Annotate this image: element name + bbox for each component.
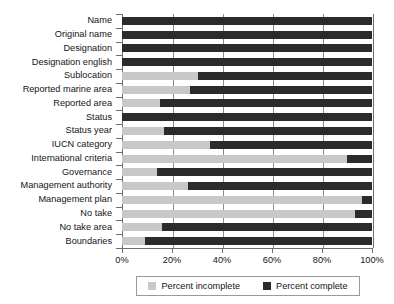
legend-label: Percent incomplete <box>161 281 240 291</box>
y-axis: NameOriginal nameDesignationDesignation … <box>0 14 122 248</box>
y-axis-label: Sublocation <box>64 71 112 80</box>
bar-segment-incomplete <box>122 210 355 218</box>
table-row <box>122 86 372 94</box>
x-axis-tick <box>372 248 373 253</box>
bar-segment-complete <box>160 99 372 107</box>
bar-segment-complete <box>198 72 372 80</box>
y-axis-label: Name <box>87 16 112 25</box>
bar-segment-incomplete <box>122 86 190 94</box>
bar-segment-complete <box>122 113 372 121</box>
y-axis-tick <box>116 55 122 56</box>
bar-segment-complete <box>362 196 372 204</box>
y-axis-label: IUCN category <box>52 140 112 149</box>
bar-segment-incomplete <box>122 127 164 135</box>
table-row <box>122 113 372 121</box>
y-axis-tick <box>116 28 122 29</box>
y-axis-label: Designation <box>63 44 112 53</box>
y-axis-tick <box>116 220 122 221</box>
bar-segment-incomplete <box>122 196 362 204</box>
y-axis-label: Governance <box>62 168 112 177</box>
bar-segment-complete <box>190 86 372 94</box>
y-axis-tick <box>116 138 122 139</box>
legend-swatch-icon <box>263 282 271 290</box>
bar-segment-incomplete <box>122 141 210 149</box>
y-axis-label: Status year <box>66 126 112 135</box>
table-row <box>122 31 372 39</box>
y-axis-label: Management authority <box>21 181 112 190</box>
x-axis-tick <box>272 248 273 253</box>
bar-segment-complete <box>210 141 372 149</box>
y-axis-tick <box>116 97 122 98</box>
y-axis-tick <box>116 124 122 125</box>
x-axis-tick-label: 40% <box>213 255 231 265</box>
y-axis-label: Designation english <box>32 58 112 67</box>
y-axis-tick <box>116 165 122 166</box>
bar-segment-incomplete <box>122 99 160 107</box>
y-axis-tick <box>116 14 122 15</box>
table-row <box>122 237 372 245</box>
y-axis-label: Management plan <box>38 195 112 204</box>
y-axis-tick <box>116 179 122 180</box>
legend-label: Percent complete <box>276 281 348 291</box>
x-axis-tick <box>222 248 223 253</box>
table-row <box>122 58 372 66</box>
bar-segment-complete <box>157 168 372 176</box>
y-axis-label: No take area <box>59 223 112 232</box>
bar-segment-incomplete <box>122 72 198 80</box>
y-axis-label: Original name <box>55 30 112 39</box>
table-row <box>122 127 372 135</box>
bar-segment-complete <box>122 31 372 39</box>
table-row <box>122 141 372 149</box>
table-row <box>122 168 372 176</box>
bar-segment-incomplete <box>122 223 162 231</box>
table-row <box>122 99 372 107</box>
legend-item: Percent incomplete <box>148 281 240 291</box>
y-axis-tick <box>116 69 122 70</box>
y-axis-tick <box>116 42 122 43</box>
bar-segment-complete <box>188 182 372 190</box>
y-axis-tick <box>116 193 122 194</box>
y-axis-tick <box>116 207 122 208</box>
table-row <box>122 223 372 231</box>
y-axis-label: International criteria <box>31 154 112 163</box>
bars-layer <box>122 14 372 248</box>
bar-segment-incomplete <box>122 237 145 245</box>
table-row <box>122 155 372 163</box>
table-row <box>122 196 372 204</box>
x-axis-tick <box>172 248 173 253</box>
y-axis-label: No take <box>80 209 112 218</box>
bar-segment-incomplete <box>122 182 188 190</box>
bar-segment-complete <box>145 237 372 245</box>
stacked-bar-chart: NameOriginal nameDesignationDesignation … <box>0 0 394 304</box>
x-axis-tick-label: 100% <box>360 255 384 265</box>
bar-segment-incomplete <box>122 168 157 176</box>
bar-segment-complete <box>347 155 372 163</box>
bar-segment-incomplete <box>122 155 347 163</box>
x-axis-tick <box>322 248 323 253</box>
table-row <box>122 210 372 218</box>
y-axis-label: Boundaries <box>66 237 112 246</box>
bar-segment-complete <box>164 127 372 135</box>
y-axis-tick <box>116 152 122 153</box>
chart-legend: Percent incompletePercent complete <box>136 276 360 296</box>
y-axis-tick <box>116 83 122 84</box>
table-row <box>122 182 372 190</box>
x-axis-tick-label: 80% <box>313 255 331 265</box>
table-row <box>122 44 372 52</box>
x-axis-tick-label: 20% <box>163 255 181 265</box>
bar-segment-complete <box>162 223 372 231</box>
x-axis-tick-label: 0% <box>115 255 128 265</box>
y-axis-tick <box>116 110 122 111</box>
legend-item: Percent complete <box>263 281 348 291</box>
table-row <box>122 72 372 80</box>
y-axis-label: Reported area <box>53 99 112 108</box>
bar-segment-complete <box>355 210 372 218</box>
bar-segment-complete <box>122 17 372 25</box>
table-row <box>122 17 372 25</box>
x-axis-tick-label: 60% <box>263 255 281 265</box>
y-axis-label: Reported marine area <box>23 85 112 94</box>
bar-segment-complete <box>122 44 372 52</box>
y-axis-tick <box>116 234 122 235</box>
y-axis-label: Status <box>86 113 112 122</box>
x-axis-line <box>122 248 373 249</box>
